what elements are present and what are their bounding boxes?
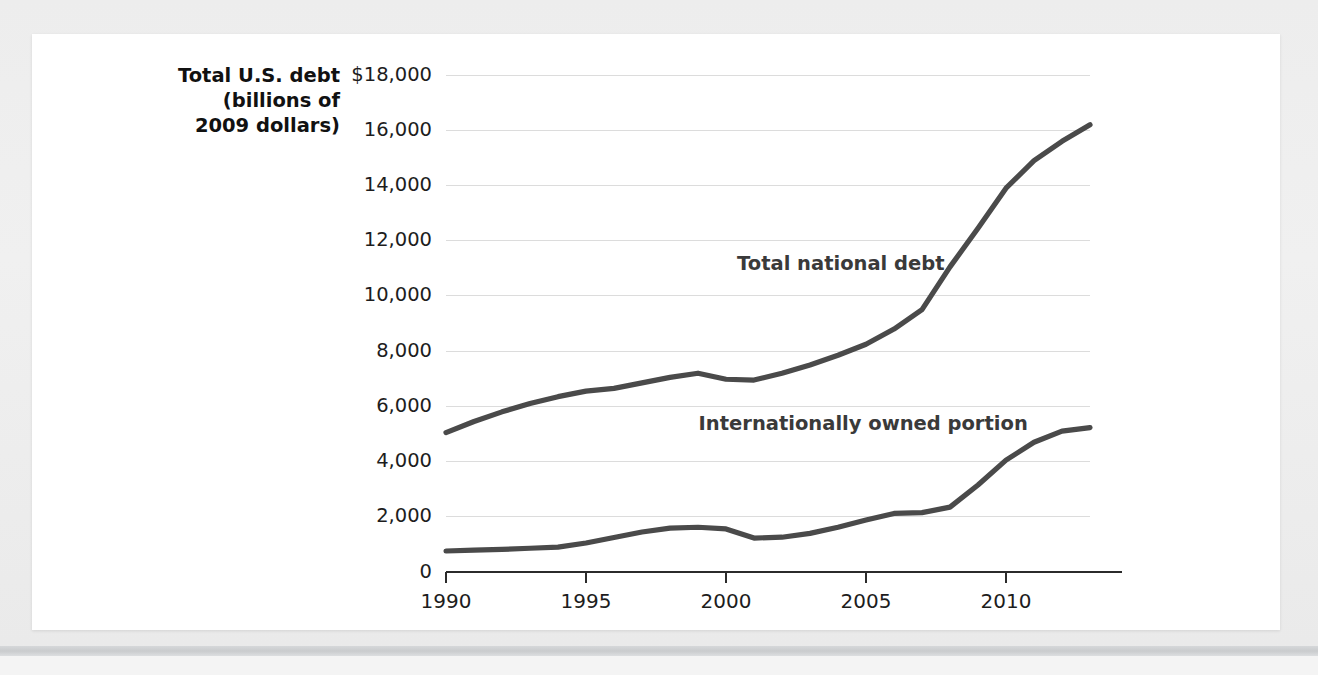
y-axis-tick-label: $18,000 [351,63,432,86]
x-axis-tick-labels: 19901995200020052010 [421,589,1032,613]
series-annotation: Total national debt [737,252,944,275]
y-axis-tick-label: 14,000 [364,173,432,196]
y-axis-tick-label: 10,000 [364,283,432,306]
y-axis-tick-labels: 02,0004,0006,0008,00010,00012,00014,0001… [351,63,432,583]
line-chart: 02,0004,0006,0008,00010,00012,00014,0001… [32,34,1280,630]
y-axis-tick-label: 16,000 [364,118,432,141]
y-axis-title-line: Total U.S. debt [178,64,340,87]
y-axis-tick-label: 6,000 [376,394,432,417]
series-line [446,428,1090,551]
figure-card: 02,0004,0006,0008,00010,00012,00014,0001… [32,34,1280,630]
y-axis-tick-label: 12,000 [364,228,432,251]
series-line [446,125,1090,433]
x-axis-tick-label: 2010 [981,589,1032,613]
x-axis-tick-label: 1995 [561,589,612,613]
axes [446,572,1122,583]
data-series [446,125,1090,551]
page-root: 02,0004,0006,0008,00010,00012,00014,0001… [0,0,1318,675]
page-divider-band [0,646,1318,656]
chart-svg: 02,0004,0006,0008,00010,00012,00014,0001… [32,34,1280,630]
y-axis-title: Total U.S. debt(billions of2009 dollars) [178,64,341,137]
y-axis-title-line: 2009 dollars) [195,114,340,137]
y-axis-tick-label: 8,000 [376,339,432,362]
y-axis-title-line: (billions of [223,89,341,112]
y-axis-tick-label: 0 [420,560,432,583]
page-background-bottom [0,656,1318,675]
y-axis-tick-label: 2,000 [376,504,432,527]
x-axis-tick-label: 1990 [421,589,472,613]
y-axis-tick-label: 4,000 [376,449,432,472]
series-annotation: Internationally owned portion [699,412,1028,435]
x-axis-tick-label: 2000 [701,589,752,613]
x-axis-tick-label: 2005 [841,589,892,613]
gridlines [446,75,1090,517]
